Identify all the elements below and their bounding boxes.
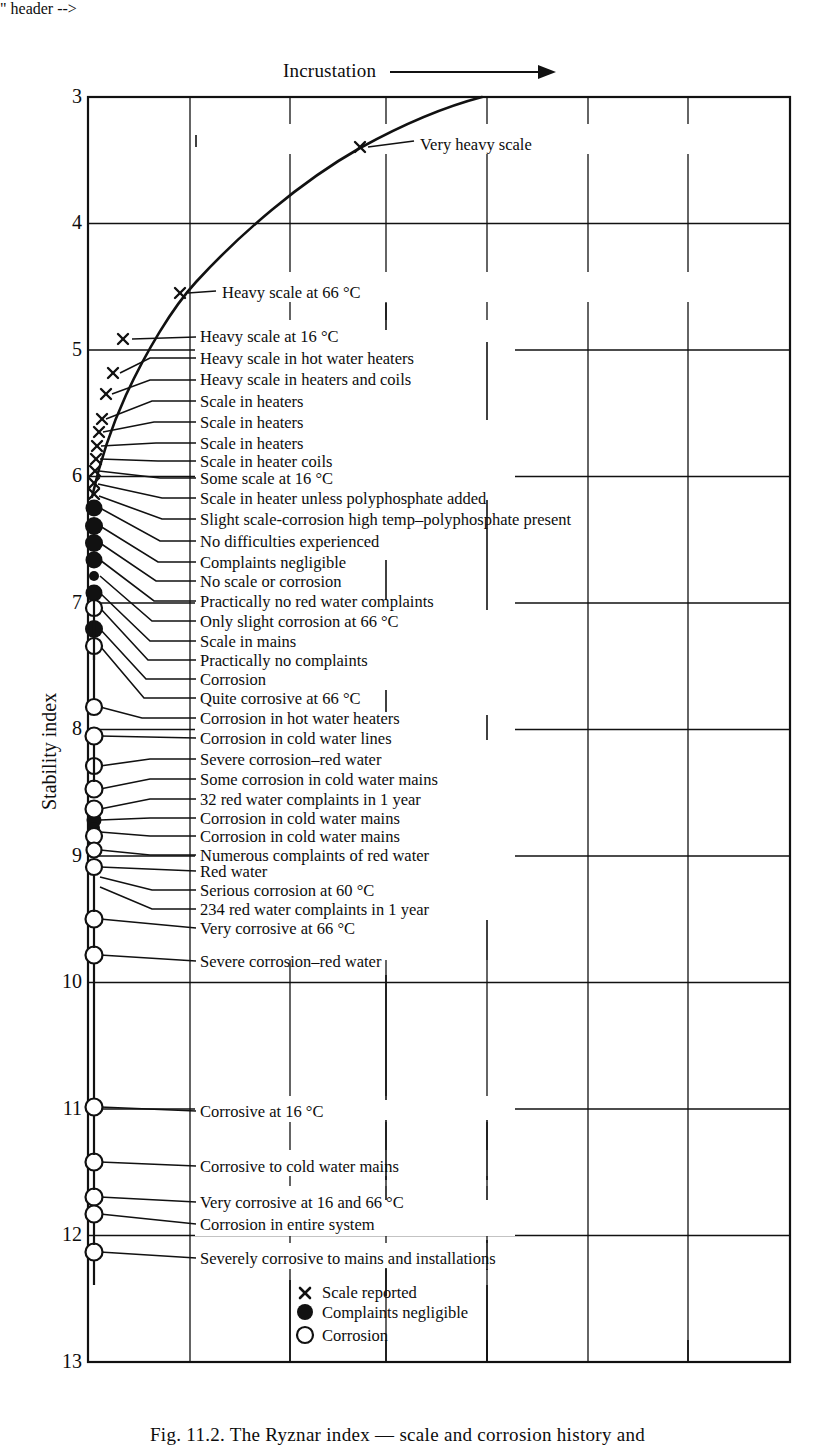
callout-label: Scale in heaters — [200, 436, 304, 453]
callout-label: Corrosion in entire system — [200, 1217, 375, 1234]
ytick-7: 7 — [48, 591, 82, 614]
callout-label: Corrosive to cold water mains — [200, 1159, 399, 1176]
callout-label: No scale or corrosion — [200, 574, 342, 591]
callout-label: Scale in heater unless polyphosphate add… — [200, 491, 486, 508]
callout-label: 32 red water complaints in 1 year — [200, 792, 421, 809]
callout-label: 234 red water complaints in 1 year — [200, 902, 429, 919]
ytick-3: 3 — [48, 85, 82, 108]
callout-label: Only slight corrosion at 66 °C — [200, 614, 399, 631]
callout-label: Scale in mains — [200, 634, 296, 651]
callout-label: Corrosion in cold water mains — [200, 811, 400, 828]
callout-label: Corrosion in hot water heaters — [200, 711, 400, 728]
callout-label: No difficulties experienced — [200, 534, 379, 551]
callout-label: Heavy scale at 16 °C — [200, 329, 339, 346]
callout-label: Very corrosive at 16 and 66 °C — [200, 1195, 404, 1212]
callout-label: Practically no complaints — [200, 653, 368, 670]
callout-label: Some scale at 16 °C — [200, 471, 333, 488]
callout-label: Practically no red water complaints — [200, 594, 434, 611]
ytick-8: 8 — [48, 717, 82, 740]
figure-caption: Fig. 11.2. The Ryznar index — scale and … — [150, 1424, 645, 1446]
callout-label: Quite corrosive at 66 °C — [200, 691, 361, 708]
legend-marker-x — [300, 1288, 310, 1298]
callout-label: Corrosion in cold water lines — [200, 731, 392, 748]
callout-label: Very corrosive at 66 °C — [200, 921, 355, 938]
ytick-9: 9 — [48, 844, 82, 867]
callout-label: Heavy scale in hot water heaters — [200, 351, 414, 368]
ytick-4: 4 — [48, 211, 82, 234]
callout-label: Heavy scale in heaters and coils — [200, 372, 411, 389]
callout-label: Very heavy scale — [420, 137, 532, 154]
ytick-5: 5 — [48, 338, 82, 361]
callout-label: Heavy scale at 66 °C — [222, 285, 361, 302]
callout-label: Severe corrosion–red water — [200, 752, 381, 769]
callout-label: Corrosion in cold water mains — [200, 829, 400, 846]
callout-label: Corrosive at 16 °C — [200, 1104, 323, 1121]
callout-label: Serious corrosion at 60 °C — [200, 883, 374, 900]
legend-entry-complaints-negligible: Complaints negligible — [322, 1305, 468, 1322]
callout-label: Severe corrosion–red water — [200, 954, 381, 971]
callout-label: Complaints negligible — [200, 555, 346, 572]
callout-label: Scale in heaters — [200, 394, 304, 411]
callout-label: Corrosion — [200, 672, 266, 689]
ytick-12: 12 — [38, 1223, 82, 1246]
legend-entry-scale-reported: Scale reported — [322, 1285, 417, 1302]
ytick-10: 10 — [38, 970, 82, 993]
callout-label: Slight scale-corrosion high temp–polypho… — [200, 512, 571, 529]
callout-label: Severely corrosive to mains and installa… — [200, 1251, 496, 1268]
callout-label: Some corrosion in cold water mains — [200, 772, 438, 789]
ytick-13: 13 — [38, 1350, 82, 1373]
legend-marker-open-circle — [297, 1327, 313, 1343]
legend-marker-filled-circle — [297, 1304, 313, 1320]
ytick-11: 11 — [38, 1097, 82, 1120]
ytick-6: 6 — [48, 464, 82, 487]
callout-label: Red water — [200, 864, 267, 881]
legend-entry-corrosion: Corrosion — [322, 1328, 388, 1345]
callout-label: Scale in heaters — [200, 415, 304, 432]
